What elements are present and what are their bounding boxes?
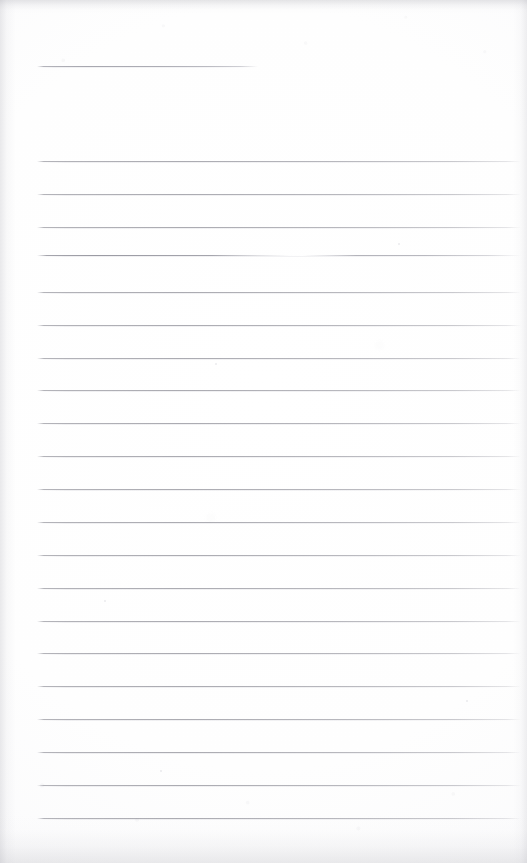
scan-edge-shadow-top (0, 0, 527, 14)
ruled-line (37, 292, 521, 293)
scan-edge-shadow-right (513, 0, 527, 863)
ruled-line-ink (37, 653, 521, 654)
ruled-line (37, 194, 521, 195)
ruled-line (37, 653, 521, 654)
ruled-line-ink (37, 227, 521, 228)
scan-speck (215, 363, 217, 365)
ruled-line (37, 255, 521, 256)
header-rule-ink (37, 66, 258, 67)
ruled-line-ink (37, 489, 521, 490)
ruled-line-ink (37, 588, 521, 589)
ruled-line (37, 489, 521, 490)
scan-speck (466, 700, 468, 702)
scan-speck (398, 243, 400, 245)
ruled-line-ink (37, 194, 521, 195)
ruled-line (37, 522, 521, 523)
ruled-line (37, 588, 521, 589)
ruled-line-ink (37, 752, 521, 753)
ruled-line-ink (37, 358, 521, 359)
ruled-line (37, 686, 521, 687)
scanned-page (0, 0, 527, 863)
ruled-line (37, 785, 521, 786)
ruled-line-ink (37, 719, 521, 720)
scan-speck (160, 770, 162, 772)
ruled-line-ink (37, 161, 521, 162)
ruled-line (37, 227, 521, 228)
ruled-line (37, 161, 521, 162)
scan-edge-shadow-bottom (0, 815, 527, 863)
ruled-line (37, 358, 521, 359)
ruled-line (37, 621, 521, 622)
ruled-line-ink (37, 325, 521, 326)
ruled-line-ink (37, 555, 521, 556)
ruled-line-ink (37, 522, 521, 523)
ruled-line-ink (37, 390, 521, 391)
paper-grain-texture (0, 0, 527, 863)
ruled-line (37, 752, 521, 753)
ruled-line (37, 719, 521, 720)
ruled-line (37, 555, 521, 556)
ruled-line (37, 423, 521, 424)
ruled-line-ink (37, 621, 521, 622)
ruled-line-ink (37, 423, 521, 424)
ruled-line-ink (37, 785, 521, 786)
header-rule (37, 66, 258, 67)
ruled-line (37, 456, 521, 457)
ruled-line (37, 325, 521, 326)
ruled-line-ink (37, 686, 521, 687)
ruled-line-ink (37, 255, 521, 256)
scan-speck (104, 600, 106, 602)
ruled-line-ink (37, 456, 521, 457)
ruled-line (37, 390, 521, 391)
scan-edge-shadow-left (0, 0, 16, 863)
ruled-line-ink (37, 292, 521, 293)
